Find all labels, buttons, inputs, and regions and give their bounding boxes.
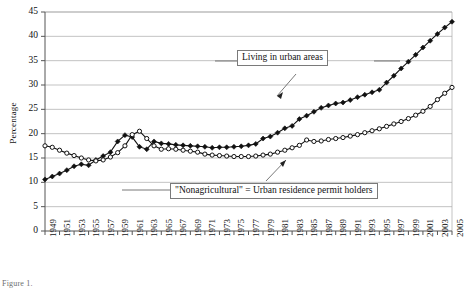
- y-tick-label: 40: [12, 31, 38, 40]
- data-point-hollow-circle: [355, 133, 359, 137]
- data-point-filled-diamond: [370, 90, 375, 95]
- data-point-filled-diamond: [304, 113, 309, 118]
- data-point-filled-diamond: [202, 144, 207, 149]
- x-tick-label: 1977: [252, 219, 261, 237]
- x-tick-label: 1981: [281, 219, 290, 237]
- data-point-hollow-circle: [159, 147, 163, 151]
- data-point-hollow-circle: [145, 136, 149, 140]
- x-tick-label: 1987: [325, 219, 334, 237]
- data-point-hollow-circle: [334, 136, 338, 140]
- data-point-hollow-circle: [406, 116, 410, 120]
- x-tick-label: 1997: [397, 219, 406, 237]
- y-tick-label: 45: [12, 7, 38, 16]
- data-point-filled-diamond: [57, 171, 62, 176]
- data-point-filled-diamond: [326, 103, 331, 108]
- x-tick-label: 1969: [194, 219, 203, 237]
- data-point-hollow-circle: [370, 129, 374, 133]
- x-tick-label: 1995: [383, 219, 392, 237]
- data-point-hollow-circle: [87, 158, 91, 162]
- y-tick-label: 10: [12, 177, 38, 186]
- data-point-hollow-circle: [414, 113, 418, 117]
- data-point-filled-diamond: [64, 168, 69, 173]
- data-point-hollow-circle: [384, 124, 388, 128]
- x-tick-label: 1957: [107, 219, 116, 237]
- data-point-filled-diamond: [43, 177, 48, 182]
- data-point-hollow-circle: [326, 137, 330, 141]
- data-point-filled-diamond: [217, 145, 222, 150]
- data-point-hollow-circle: [421, 109, 425, 113]
- data-point-hollow-circle: [57, 148, 61, 152]
- data-point-filled-diamond: [333, 101, 338, 106]
- y-tick-label: 20: [12, 129, 38, 138]
- x-tick-label: 1961: [136, 219, 145, 237]
- data-point-filled-diamond: [311, 109, 316, 114]
- x-tick-label: 2001: [426, 219, 435, 237]
- data-point-filled-diamond: [239, 144, 244, 149]
- data-point-hollow-circle: [43, 144, 47, 148]
- x-tick-label: 1983: [296, 219, 305, 237]
- x-tick-label: 1963: [150, 219, 159, 237]
- x-tick-label: 1967: [179, 219, 188, 237]
- x-tick-label: 1973: [223, 219, 232, 237]
- x-tick-label: 1975: [237, 219, 246, 237]
- annotation-arrowhead-nonag: [280, 160, 286, 167]
- data-point-hollow-circle: [297, 143, 301, 147]
- y-tick-label: 35: [12, 56, 38, 65]
- figure-caption: Figure 1.: [2, 279, 33, 288]
- data-point-hollow-circle: [392, 122, 396, 126]
- data-point-hollow-circle: [203, 152, 207, 156]
- data-point-filled-diamond: [50, 174, 55, 179]
- data-point-filled-diamond: [210, 145, 215, 150]
- data-point-filled-diamond: [282, 126, 287, 131]
- x-tick-label: 2003: [441, 219, 450, 237]
- data-point-filled-diamond: [166, 141, 171, 146]
- annotation-living-in-urban-areas: Living in urban areas: [237, 50, 328, 66]
- y-tick-label: 25: [12, 104, 38, 113]
- data-point-filled-diamond: [72, 164, 77, 169]
- x-tick-label: 1953: [78, 219, 87, 237]
- data-point-hollow-circle: [101, 158, 105, 162]
- data-point-hollow-circle: [210, 153, 214, 157]
- y-tick-label: 15: [12, 153, 38, 162]
- data-point-hollow-circle: [399, 119, 403, 123]
- data-point-filled-diamond: [231, 144, 236, 149]
- data-point-filled-diamond: [224, 145, 229, 150]
- x-tick-label: 1991: [354, 219, 363, 237]
- data-point-filled-diamond: [246, 143, 251, 148]
- data-point-filled-diamond: [79, 162, 84, 167]
- data-point-hollow-circle: [341, 135, 345, 139]
- x-tick-label: 1965: [165, 219, 174, 237]
- y-tick-label: 30: [12, 80, 38, 89]
- data-point-hollow-circle: [196, 150, 200, 154]
- data-point-hollow-circle: [94, 159, 98, 163]
- data-point-hollow-circle: [283, 148, 287, 152]
- data-point-hollow-circle: [232, 154, 236, 158]
- data-point-hollow-circle: [348, 134, 352, 138]
- data-point-filled-diamond: [173, 142, 178, 147]
- data-point-hollow-circle: [79, 156, 83, 160]
- data-point-hollow-circle: [290, 146, 294, 150]
- data-point-hollow-circle: [435, 98, 439, 102]
- y-tick-label: 0: [12, 226, 38, 235]
- x-tick-label: 1951: [63, 219, 72, 237]
- data-point-hollow-circle: [275, 150, 279, 154]
- data-point-hollow-circle: [108, 155, 112, 159]
- x-tick-label: 2005: [456, 219, 465, 237]
- data-point-hollow-circle: [166, 147, 170, 151]
- data-point-hollow-circle: [319, 139, 323, 143]
- x-tick-label: 1989: [339, 219, 348, 237]
- data-point-hollow-circle: [225, 154, 229, 158]
- data-point-hollow-circle: [72, 153, 76, 157]
- data-point-filled-diamond: [340, 100, 345, 105]
- series-line-nonagricultural: [45, 87, 452, 160]
- x-tick-label: 1949: [49, 219, 58, 237]
- data-point-hollow-circle: [123, 144, 127, 148]
- data-point-hollow-circle: [254, 154, 258, 158]
- data-point-filled-diamond: [159, 141, 164, 146]
- data-point-hollow-circle: [137, 129, 141, 133]
- y-tick-label: 5: [12, 202, 38, 211]
- x-tick-label: 1985: [310, 219, 319, 237]
- data-point-filled-diamond: [188, 143, 193, 148]
